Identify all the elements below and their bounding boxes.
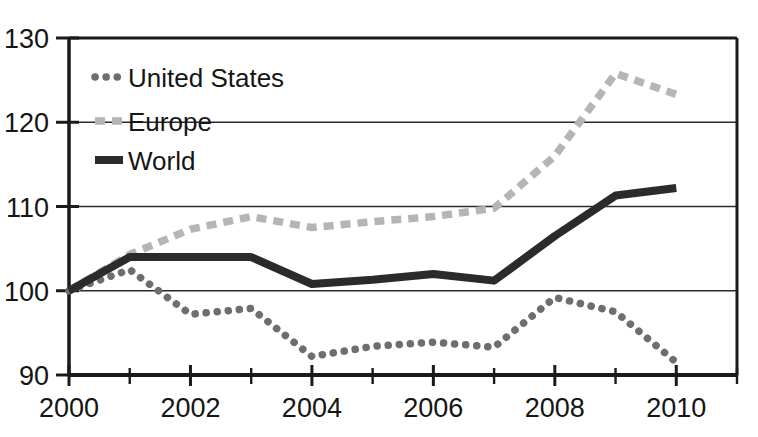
x-tick-label: 2010 — [646, 393, 706, 423]
x-tick-label: 2002 — [160, 393, 220, 423]
y-tick-label: 120 — [4, 108, 49, 138]
legend-label: Europe — [128, 107, 212, 137]
y-tick-label: 130 — [4, 24, 49, 54]
y-tick-label: 110 — [6, 193, 49, 223]
legend-label: World — [128, 146, 195, 176]
line-chart: 90100110120130 200020022004200620082010 … — [0, 0, 758, 437]
y-tick-label: 100 — [4, 277, 49, 307]
y-tick-label: 90 — [19, 361, 49, 391]
x-tick-label: 2000 — [39, 393, 99, 423]
chart-figure: 90100110120130 200020022004200620082010 … — [0, 0, 758, 437]
x-tick-label: 2008 — [525, 393, 585, 423]
legend-label: United States — [128, 63, 284, 93]
x-tick-label: 2004 — [282, 393, 342, 423]
x-tick-label: 2006 — [403, 393, 463, 423]
